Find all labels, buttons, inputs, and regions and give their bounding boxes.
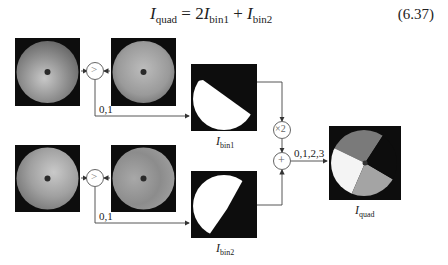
comparator-1-symbol: > <box>91 63 97 75</box>
label-bin1: Ibin1 <box>216 134 234 150</box>
adder-symbol: + <box>278 153 285 168</box>
label-bin2: Ibin2 <box>216 241 234 257</box>
phase-image-1a <box>15 38 80 106</box>
binary-image-bin2 <box>191 171 257 238</box>
sum-edge-label: 0,1,2,3 <box>294 147 324 159</box>
multiplier-symbol: ×2 <box>275 123 286 134</box>
label-quad: Iquad <box>355 203 375 219</box>
comparator-2-symbol: > <box>91 170 97 182</box>
binary-image-bin1 <box>191 64 257 131</box>
quadrant-image <box>329 126 401 200</box>
phase-image-2a <box>15 145 80 212</box>
phase-image-2b <box>111 145 176 212</box>
phase-image-1b <box>111 38 176 106</box>
